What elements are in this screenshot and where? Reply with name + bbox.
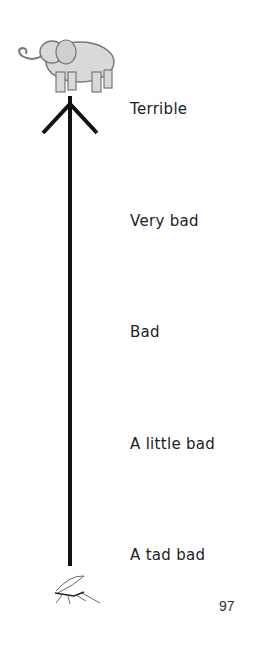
level-very-bad: Very bad [130,212,199,230]
level-bad: Bad [130,323,160,341]
mosquito-icon [50,573,106,607]
level-a-little-bad: A little bad [130,435,215,453]
arrow-head-icon [40,100,100,136]
level-terrible: Terrible [130,100,187,118]
severity-arrow-shaft [68,96,72,566]
elephant-icon [14,34,118,96]
level-a-tad-bad: A tad bad [130,546,205,564]
page-number: 97 [219,598,235,614]
